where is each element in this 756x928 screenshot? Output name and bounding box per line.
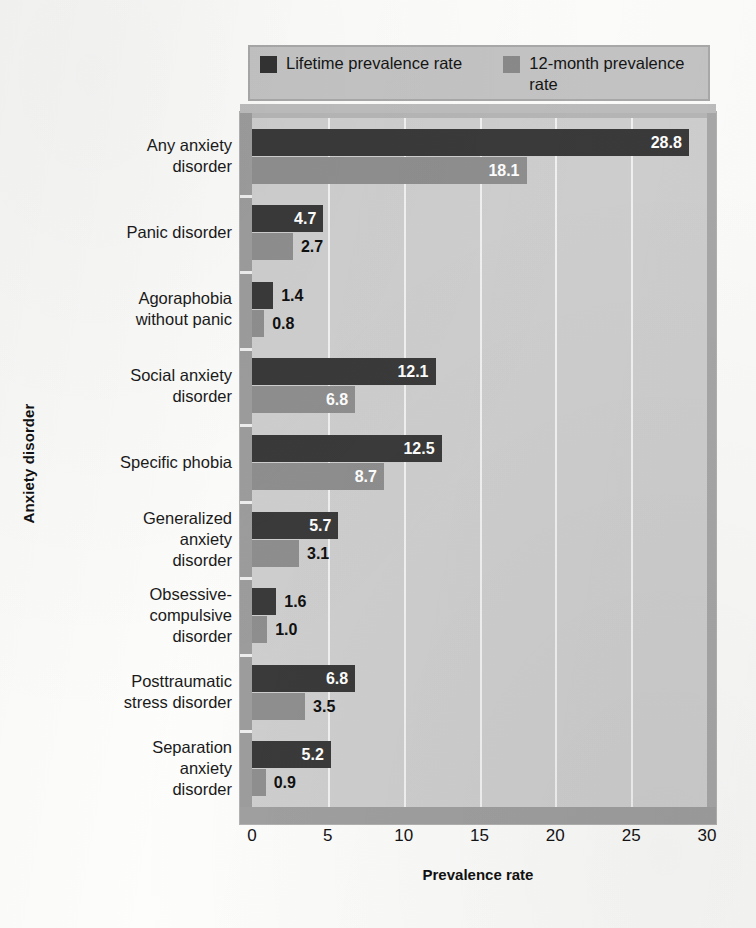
bar-value-label: 0.8	[272, 310, 294, 337]
category-label-line: disorder	[60, 626, 232, 647]
category-label-line: Obsessive-	[60, 584, 232, 605]
x-axis-tick-label: 5	[323, 826, 332, 846]
category-label: Obsessive-compulsivedisorder	[60, 584, 232, 647]
plot-right-spine	[707, 112, 716, 824]
legend-item-12month[interactable]: 12-month prevalence rate	[503, 53, 698, 95]
bar-value-label: 6.8	[326, 386, 348, 413]
category-label-line: anxiety	[60, 758, 232, 779]
category-label-line: stress disorder	[60, 692, 232, 713]
bar-lifetime: 5.7	[252, 512, 338, 539]
y-axis-title: Anxiety disorder	[20, 354, 37, 574]
bar-12month: 1.0	[252, 616, 267, 643]
category-label-line: without panic	[60, 309, 232, 330]
bar-lifetime: 12.1	[252, 358, 436, 385]
legend-label-lifetime: Lifetime prevalence rate	[286, 53, 462, 74]
category-label: Panic disorder	[60, 222, 232, 243]
x-axis-tick-label: 25	[622, 826, 641, 846]
x-axis-tick-label: 15	[470, 826, 489, 846]
bar-lifetime: 6.8	[252, 665, 355, 692]
category-label: Generalizedanxietydisorder	[60, 508, 232, 571]
bar-12month: 6.8	[252, 386, 355, 413]
x-axis-title: Prevalence rate	[240, 866, 716, 883]
y-axis-tick	[240, 195, 252, 198]
legend-swatch-lifetime-icon	[260, 56, 277, 73]
category-label: Specific phobia	[60, 452, 232, 473]
bar-12month: 18.1	[252, 157, 527, 184]
gridline	[631, 118, 633, 807]
chart-page: Anxiety disorder Any anxietydisorderPani…	[0, 0, 756, 928]
category-label-line: disorder	[60, 386, 232, 407]
x-axis-tick-label: 10	[394, 826, 413, 846]
bar-lifetime: 4.7	[252, 205, 323, 232]
bar-value-label: 0.9	[274, 769, 296, 796]
bar-value-label: 1.4	[281, 282, 303, 309]
category-label-line: Agoraphobia	[60, 288, 232, 309]
bar-value-label: 1.6	[284, 588, 306, 615]
bar-12month: 3.1	[252, 540, 299, 567]
y-axis-tick	[240, 424, 252, 427]
legend-item-lifetime[interactable]: Lifetime prevalence rate	[260, 53, 503, 74]
bar-12month: 3.5	[252, 693, 305, 720]
category-label-line: Any anxiety	[60, 135, 232, 156]
y-axis-tick	[240, 577, 252, 580]
bar-lifetime: 1.6	[252, 588, 276, 615]
bar-value-label: 28.8	[651, 129, 682, 156]
plot-bottom-spine	[240, 807, 716, 824]
gridline	[555, 118, 557, 807]
bar-value-label: 6.8	[326, 665, 348, 692]
bar-value-label: 12.5	[403, 435, 434, 462]
y-axis-tick	[240, 501, 252, 504]
category-label: Any anxietydisorder	[60, 135, 232, 177]
bar-lifetime: 5.2	[252, 741, 331, 768]
bar-12month: 2.7	[252, 233, 293, 260]
x-axis-tick-label: 20	[546, 826, 565, 846]
plot-left-spine	[240, 112, 252, 824]
bar-value-label: 12.1	[397, 358, 428, 385]
bar-lifetime: 12.5	[252, 435, 442, 462]
bar-12month: 0.9	[252, 769, 266, 796]
category-label: Posttraumaticstress disorder	[60, 671, 232, 713]
category-label-line: disorder	[60, 156, 232, 177]
category-label: Agoraphobiawithout panic	[60, 288, 232, 330]
bar-lifetime: 28.8	[252, 129, 689, 156]
category-label-line: compulsive	[60, 605, 232, 626]
y-axis-tick	[240, 348, 252, 351]
gridline	[480, 118, 482, 807]
bar-value-label: 1.0	[275, 616, 297, 643]
plot-frame: 28.818.14.72.71.40.812.16.812.58.75.73.1…	[240, 112, 716, 824]
bar-12month: 8.7	[252, 463, 384, 490]
bar-value-label: 3.1	[307, 540, 329, 567]
category-label-line: Separation	[60, 737, 232, 758]
y-axis-tick	[240, 730, 252, 733]
category-label: Separationanxietydisorder	[60, 737, 232, 800]
plot-area: 28.818.14.72.71.40.812.16.812.58.75.73.1…	[252, 118, 707, 807]
legend-divider-band	[240, 104, 716, 113]
x-axis-tick-labels: 051015202530	[240, 824, 716, 864]
bar-value-label: 18.1	[488, 157, 519, 184]
category-label-line: disorder	[60, 779, 232, 800]
bar-value-label: 8.7	[355, 463, 377, 490]
y-axis-tick	[240, 654, 252, 657]
y-axis-tick	[240, 271, 252, 274]
category-label-line: Posttraumatic	[60, 671, 232, 692]
bar-12month: 0.8	[252, 310, 264, 337]
gridline	[404, 118, 406, 807]
category-label-line: Generalized	[60, 508, 232, 529]
category-label: Social anxietydisorder	[60, 365, 232, 407]
x-axis-tick-label: 0	[247, 826, 256, 846]
bar-value-label: 2.7	[301, 233, 323, 260]
bar-value-label: 3.5	[313, 693, 335, 720]
category-label-line: Specific phobia	[60, 452, 232, 473]
bar-value-label: 5.2	[302, 741, 324, 768]
category-label-line: Panic disorder	[60, 222, 232, 243]
x-axis-tick-label: 30	[698, 826, 717, 846]
category-label-line: disorder	[60, 550, 232, 571]
chart-legend: Lifetime prevalence rate 12-month preval…	[248, 45, 710, 101]
legend-swatch-12month-icon	[503, 56, 520, 73]
bar-value-label: 4.7	[294, 205, 316, 232]
category-label-column: Any anxietydisorderPanic disorderAgoraph…	[60, 122, 232, 814]
legend-label-12month: 12-month prevalence rate	[529, 53, 698, 95]
bar-value-label: 5.7	[309, 512, 331, 539]
bar-lifetime: 1.4	[252, 282, 273, 309]
category-label-line: Social anxiety	[60, 365, 232, 386]
